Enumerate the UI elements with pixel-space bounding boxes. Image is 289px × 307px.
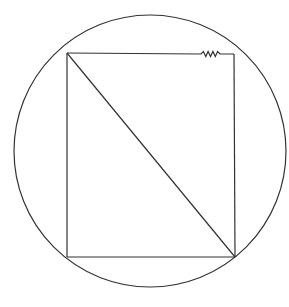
rectangle-diagonal [67,53,235,257]
rectangle-right-edge [234,54,235,257]
circumscribed-circle [14,15,286,287]
rectangle-top-edge-with-zigzag [67,52,234,57]
inscribed-rectangle-diagram [0,0,289,307]
